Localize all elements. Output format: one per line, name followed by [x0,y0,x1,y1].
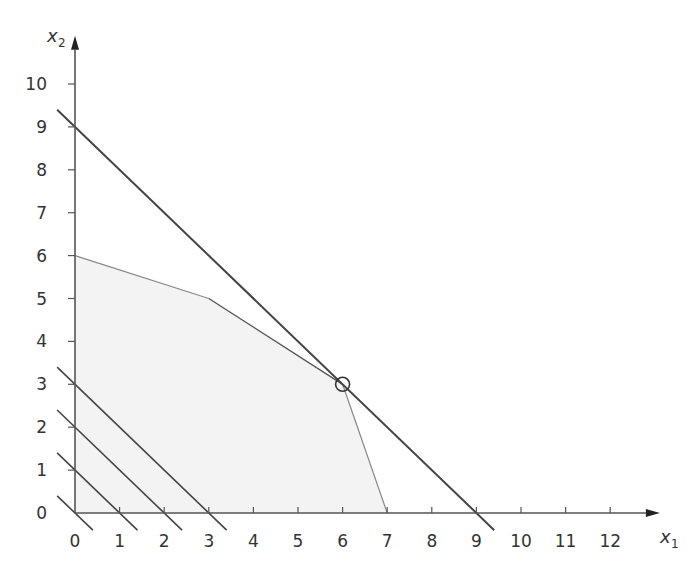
y-tick-label: 8 [36,160,47,180]
x-tick-label: 3 [203,531,214,551]
x-tick-label: 0 [70,531,81,551]
x-tick-label: 11 [555,531,577,551]
y-tick-label: 4 [36,331,47,351]
x-tick-label: 7 [382,531,393,551]
y-tick-label: 6 [36,246,47,266]
y-tick-label: 5 [36,289,47,309]
x-axis-label-subscript: 1 [671,537,679,551]
y-tick-label: 7 [36,203,47,223]
x-tick-label: 4 [248,531,259,551]
x-tick-label: 12 [599,531,621,551]
x-tick-label: 8 [426,531,437,551]
y-axis-label: x [46,25,58,46]
x-tick-label: 5 [293,531,304,551]
y-axis-arrow-icon [71,36,79,50]
y-tick-label: 9 [36,117,47,137]
x-tick-label: 2 [159,531,170,551]
x-tick-label: 10 [510,531,532,551]
x-axis-label: x [659,526,671,547]
lp-diagram: 0123456789101112012345678910x1x2 [0,0,688,586]
y-tick-label: 2 [36,417,47,437]
x-tick-label: 9 [471,531,482,551]
y-tick-label: 10 [25,74,47,94]
x-axis-arrow-icon [646,509,660,517]
x-tick-label: 6 [337,531,348,551]
feasible-region-fill [75,256,387,513]
y-axis-label-subscript: 2 [58,36,66,50]
y-tick-label: 3 [36,374,47,394]
y-tick-label: 1 [36,460,47,480]
x-tick-label: 1 [114,531,125,551]
feasible-region [75,256,387,513]
y-tick-label: 0 [36,503,47,523]
